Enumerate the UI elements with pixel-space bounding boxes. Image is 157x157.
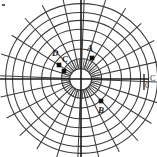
data-point-label-c: C <box>62 55 68 64</box>
axis-label-c: C <box>150 75 155 83</box>
data-point-marker <box>57 63 62 68</box>
origin-label: 0 <box>145 82 149 90</box>
data-point-label-a: A <box>87 44 93 53</box>
data-point-marker <box>99 99 104 104</box>
data-point-label-b: B <box>98 106 104 115</box>
data-point-marker <box>90 56 95 61</box>
polar-chart-figure: D C A B C 0 <box>0 0 157 157</box>
polar-grid-svg <box>0 0 157 157</box>
data-point-marker <box>62 69 67 74</box>
data-point-label-d: D <box>52 49 59 58</box>
